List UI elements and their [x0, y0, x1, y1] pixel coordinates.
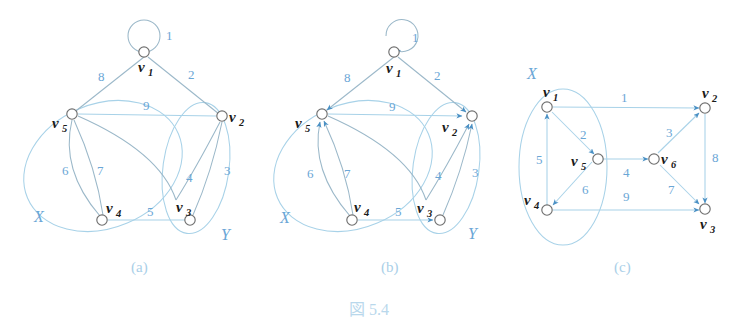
node-v2[interactable]: [217, 111, 227, 121]
svg-text:6: 6: [671, 159, 677, 170]
weight-label-6: 6: [307, 166, 314, 181]
edge-3: [443, 124, 472, 215]
svg-text:v: v: [524, 192, 531, 208]
node-v2[interactable]: [467, 111, 477, 121]
edge-3: [658, 113, 699, 153]
weight-label-4: 4: [623, 165, 630, 180]
edge-2: [148, 57, 219, 114]
vertex-label-v4: v 4: [524, 192, 539, 211]
weight-label-9: 9: [143, 98, 150, 113]
svg-text:v: v: [571, 153, 578, 169]
vertex-label-v1: v 1: [138, 59, 153, 78]
figure-container: v 1 v 2 v 3 v 4 v 5 1 2 3 4 5 6 7 8 9 X …: [0, 0, 738, 335]
edge-2: [398, 57, 466, 112]
vertex-label-v6: v 6: [661, 151, 677, 170]
weight-label-4: 4: [186, 170, 193, 185]
weight-label-1: 1: [621, 90, 628, 105]
svg-text:v: v: [442, 119, 449, 135]
weight-label-5: 5: [395, 204, 402, 219]
node-v2[interactable]: [700, 103, 710, 113]
svg-text:4: 4: [115, 208, 121, 219]
node-v5[interactable]: [67, 109, 77, 119]
weight-label-8: 8: [98, 69, 105, 84]
edge-9: [328, 114, 462, 116]
weight-label-3: 3: [472, 165, 479, 180]
svg-text:4: 4: [363, 207, 369, 218]
weight-label-1: 1: [166, 28, 173, 43]
vertex-label-v4: v 4: [354, 199, 369, 218]
edge-8: [72, 57, 144, 114]
svg-text:2: 2: [451, 127, 458, 138]
set-label-x: X: [279, 209, 291, 226]
vertex-label-v3: v 3: [176, 199, 191, 218]
panel-a: v 1 v 2 v 3 v 4 v 5 1 2 3 4 5 6 7 8 9 X …: [0, 0, 260, 300]
weight-label-6: 6: [62, 163, 69, 178]
svg-text:2: 2: [711, 93, 718, 104]
vertex-label-v1: v 1: [543, 84, 558, 103]
svg-text:3: 3: [709, 224, 715, 235]
svg-text:5: 5: [62, 123, 67, 134]
svg-text:2: 2: [238, 117, 245, 128]
svg-text:1: 1: [148, 67, 153, 78]
svg-text:v: v: [417, 200, 424, 216]
weight-label-7: 7: [668, 182, 675, 197]
panel-b: v 1 v 2 v 3 v 4 v 5 1 2 3 4 5 6 7 8 9 X …: [250, 0, 510, 300]
edge-2: [552, 112, 594, 154]
node-v1[interactable]: [139, 47, 149, 57]
set-label-x: X: [33, 208, 45, 225]
node-v1[interactable]: [542, 102, 552, 112]
svg-text:v: v: [661, 151, 668, 167]
node-v5[interactable]: [317, 109, 327, 119]
node-v3[interactable]: [435, 215, 445, 225]
svg-text:v: v: [52, 115, 59, 131]
edge-4: [176, 122, 220, 200]
weight-label-3: 3: [666, 125, 673, 140]
node-v4[interactable]: [97, 215, 107, 225]
weight-label-6: 6: [582, 182, 589, 197]
node-v4[interactable]: [542, 205, 552, 215]
panel-label-a: (a): [131, 259, 148, 276]
set-label-y: Y: [468, 225, 479, 242]
node-v5[interactable]: [593, 154, 603, 164]
weight-label-5: 5: [536, 152, 543, 167]
svg-text:v: v: [295, 115, 302, 131]
weight-label-7: 7: [97, 163, 104, 178]
set-label-y: Y: [221, 226, 232, 243]
panel-label-c: (c): [614, 259, 631, 276]
vertex-label-v3: v 3: [700, 216, 715, 235]
set-label-x: X: [526, 65, 538, 82]
svg-text:v: v: [702, 85, 709, 101]
edge-7: [660, 165, 699, 204]
weight-label-5: 5: [147, 204, 154, 219]
weight-label-7: 7: [344, 166, 351, 181]
vertex-label-v2: v 2: [229, 109, 245, 128]
svg-text:5: 5: [581, 161, 586, 172]
svg-text:v: v: [138, 59, 145, 75]
svg-text:v: v: [229, 109, 236, 125]
set-hull-x: [519, 89, 607, 245]
svg-text:1: 1: [396, 68, 401, 79]
edge-3: [193, 122, 222, 215]
svg-text:v: v: [543, 84, 550, 100]
edge-4-part1: [328, 116, 426, 200]
vertex-label-v2: v 2: [702, 85, 718, 104]
weight-label-9: 9: [389, 99, 396, 114]
weight-label-8: 8: [712, 150, 719, 165]
node-v1[interactable]: [389, 47, 399, 57]
edge-9: [78, 114, 216, 116]
weight-label-2: 2: [434, 68, 441, 83]
set-hull-x: [253, 77, 452, 255]
weight-label-3: 3: [224, 163, 231, 178]
weight-label-1: 1: [412, 30, 419, 45]
svg-text:v: v: [386, 60, 393, 76]
node-v4[interactable]: [347, 215, 357, 225]
svg-text:v: v: [106, 200, 113, 216]
node-v3[interactable]: [700, 204, 710, 214]
svg-text:5: 5: [305, 123, 310, 134]
figure-caption-container: 図 5.4: [0, 295, 738, 335]
edge-4-cont: [78, 116, 176, 200]
node-v6[interactable]: [649, 154, 659, 164]
vertex-label-v1: v 1: [386, 60, 401, 79]
svg-text:v: v: [354, 199, 361, 215]
panel-c: v 1 v 2 v 3 v 4 v 5 v 6 1 2 3 4 5 6 7 8 …: [490, 40, 738, 335]
